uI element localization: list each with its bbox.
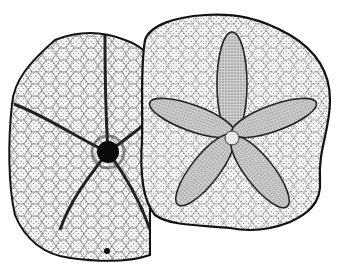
aboral-view-test [135, 10, 335, 240]
apical-disc [225, 131, 239, 145]
anal-pore [104, 248, 110, 254]
sand-dollar-illustration [0, 0, 338, 270]
mouth [97, 141, 119, 163]
